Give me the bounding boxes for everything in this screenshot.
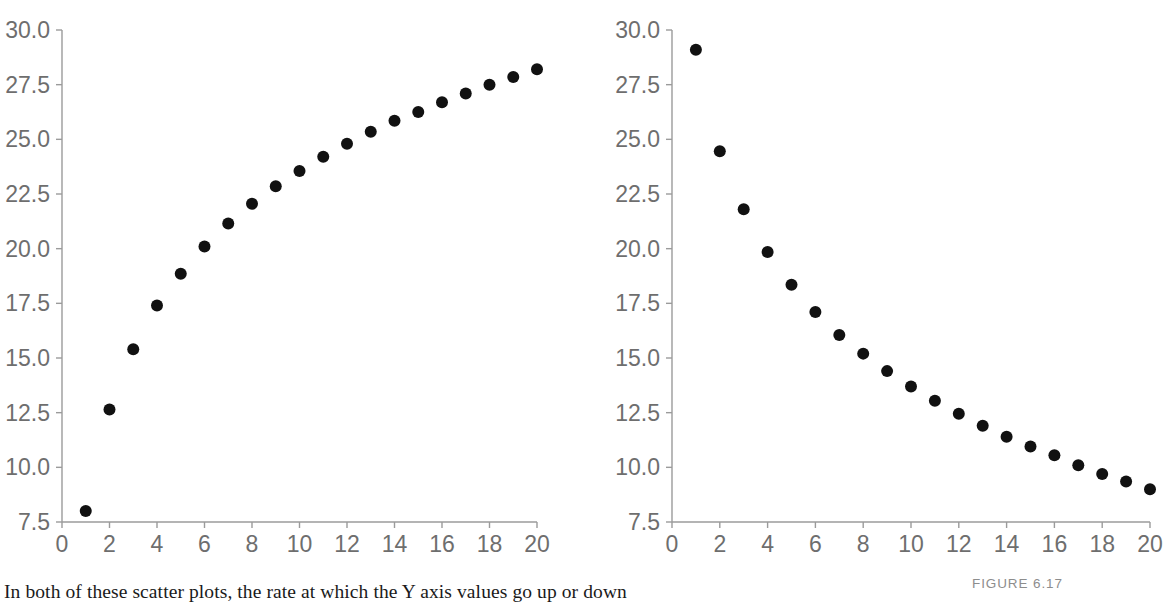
scatter-point: [365, 126, 377, 138]
y-axis-tick-label: 17.5: [5, 290, 50, 316]
left-scatter-plot-canvas: 7.510.012.515.017.520.022.525.027.530.00…: [0, 0, 600, 558]
figure-number-label: FIGURE 6.17: [972, 576, 1063, 591]
y-axis-tick-label: 22.5: [5, 181, 50, 207]
x-axis-tick-label: 2: [103, 531, 116, 557]
scatter-point: [175, 268, 187, 280]
y-axis-tick-label: 12.5: [5, 400, 50, 426]
scatter-point: [294, 165, 306, 177]
y-axis-tick-label: 7.5: [628, 509, 660, 535]
scatter-point: [881, 365, 893, 377]
y-axis-tick-label: 17.5: [615, 290, 660, 316]
scatter-point: [484, 79, 496, 91]
x-axis-tick-label: 0: [56, 531, 69, 557]
x-axis-tick-label: 20: [524, 531, 550, 557]
scatter-point: [833, 329, 845, 341]
x-axis-tick-label: 10: [898, 531, 924, 557]
y-axis-tick-label: 10.0: [615, 454, 660, 480]
scatter-point: [1144, 483, 1156, 495]
scatter-point: [341, 138, 353, 150]
scatter-plot-pair: 7.510.012.515.017.520.022.525.027.530.00…: [0, 0, 1173, 558]
scatter-point: [738, 203, 750, 215]
y-axis-tick-label: 27.5: [615, 72, 660, 98]
scatter-point: [1072, 459, 1084, 471]
x-axis-tick-label: 4: [761, 531, 774, 557]
scatter-point: [714, 145, 726, 157]
y-axis-tick-label: 20.0: [5, 236, 50, 262]
scatter-point: [270, 180, 282, 192]
y-axis-tick-label: 25.0: [615, 126, 660, 152]
x-axis-tick-label: 6: [198, 531, 211, 557]
x-axis-tick-label: 16: [429, 531, 455, 557]
y-axis-tick-label: 12.5: [615, 400, 660, 426]
scatter-point: [1120, 476, 1132, 488]
right-scatter-plot: 7.510.012.515.017.520.022.525.027.530.00…: [600, 0, 1173, 558]
scatter-point: [531, 63, 543, 75]
y-axis-tick-label: 27.5: [5, 72, 50, 98]
y-axis-tick-label: 15.0: [615, 345, 660, 371]
scatter-point: [151, 300, 163, 312]
scatter-point: [1048, 449, 1060, 461]
x-axis-tick-label: 14: [382, 531, 408, 557]
scatter-point: [507, 71, 519, 83]
figure-page: 7.510.012.515.017.520.022.525.027.530.00…: [0, 0, 1173, 610]
x-axis-tick-label: 0: [666, 531, 679, 557]
scatter-point: [762, 246, 774, 258]
x-axis-tick-label: 18: [1089, 531, 1115, 557]
right-scatter-plot-canvas: 7.510.012.515.017.520.022.525.027.530.00…: [600, 0, 1173, 558]
scatter-point: [1025, 441, 1037, 453]
x-axis-tick-label: 18: [477, 531, 503, 557]
scatter-point: [412, 106, 424, 118]
scatter-point: [80, 505, 92, 517]
scatter-point: [222, 218, 234, 230]
x-axis-tick-label: 16: [1042, 531, 1068, 557]
y-axis-tick-label: 7.5: [18, 509, 50, 535]
y-axis-tick-label: 15.0: [5, 345, 50, 371]
x-axis-tick-label: 8: [857, 531, 870, 557]
figure-caption: In both of these scatter plots, the rate…: [4, 580, 904, 604]
x-axis-tick-label: 10: [287, 531, 313, 557]
x-axis-tick-label: 14: [994, 531, 1020, 557]
y-axis-tick-label: 20.0: [615, 236, 660, 262]
x-axis-tick-label: 20: [1137, 531, 1163, 557]
scatter-point: [690, 44, 702, 56]
scatter-point: [929, 395, 941, 407]
y-axis-tick-label: 30.0: [615, 17, 660, 43]
scatter-point: [317, 151, 329, 163]
scatter-point: [389, 115, 401, 127]
scatter-point: [786, 279, 798, 291]
x-axis-tick-label: 4: [151, 531, 164, 557]
scatter-point: [436, 96, 448, 108]
y-axis-tick-label: 30.0: [5, 17, 50, 43]
scatter-point: [857, 348, 869, 360]
scatter-point: [1096, 468, 1108, 480]
left-scatter-plot: 7.510.012.515.017.520.022.525.027.530.00…: [0, 0, 600, 558]
scatter-point: [460, 87, 472, 99]
scatter-point: [977, 420, 989, 432]
scatter-point: [104, 403, 116, 415]
y-axis-tick-label: 22.5: [615, 181, 660, 207]
scatter-point: [127, 343, 139, 355]
y-axis-tick-label: 25.0: [5, 126, 50, 152]
y-axis-tick-label: 10.0: [5, 454, 50, 480]
x-axis-tick-label: 12: [334, 531, 360, 557]
scatter-point: [199, 240, 211, 252]
x-axis-tick-label: 2: [713, 531, 726, 557]
scatter-point: [246, 198, 258, 210]
x-axis-tick-label: 6: [809, 531, 822, 557]
scatter-point: [809, 306, 821, 318]
scatter-point: [905, 380, 917, 392]
x-axis-tick-label: 12: [946, 531, 972, 557]
scatter-point: [1001, 431, 1013, 443]
scatter-point: [953, 408, 965, 420]
x-axis-tick-label: 8: [246, 531, 259, 557]
